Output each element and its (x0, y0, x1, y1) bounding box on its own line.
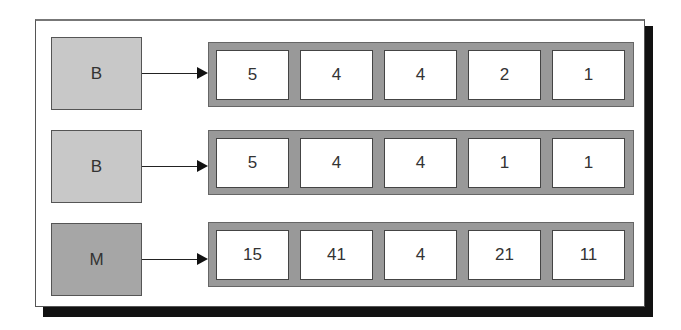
value-cell: 1 (552, 50, 625, 100)
value-cell: 4 (384, 50, 457, 100)
value-cell: 4 (384, 138, 457, 188)
value-cell: 5 (216, 50, 289, 100)
value-cell: 21 (468, 230, 541, 280)
row-2-arrow-icon (142, 160, 208, 172)
value-cell: 2 (468, 50, 541, 100)
row-1-label-box: B (51, 37, 142, 110)
value-cell: 1 (552, 138, 625, 188)
value-cell: 11 (552, 230, 625, 280)
row-2-label: B (91, 157, 102, 177)
value-cell: 4 (384, 230, 457, 280)
value-cell: 1 (468, 138, 541, 188)
row-3-arrow-icon (142, 253, 208, 265)
value-cell: 4 (300, 138, 373, 188)
row-1-label: B (91, 64, 102, 84)
value-cell: 4 (300, 50, 373, 100)
row-3-label: M (89, 250, 103, 270)
row-1-values: 5 4 4 2 1 (208, 42, 634, 107)
value-cell: 15 (216, 230, 289, 280)
row-3-label-box: M (51, 223, 142, 296)
value-cell: 41 (300, 230, 373, 280)
row-2-values: 5 4 4 1 1 (208, 130, 634, 195)
row-3-values: 15 41 4 21 11 (208, 222, 634, 287)
value-cell: 5 (216, 138, 289, 188)
row-1-arrow-icon (142, 67, 208, 79)
row-2-label-box: B (51, 130, 142, 203)
